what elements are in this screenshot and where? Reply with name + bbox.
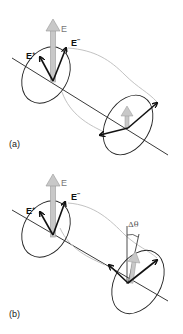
E-minus-vector-2 [100, 128, 128, 135]
propagation-axis [12, 210, 168, 301]
helix-curve-upper [68, 203, 157, 258]
label-E: E [61, 179, 67, 188]
label-E: E [61, 25, 67, 34]
label-E-plus: E+ [26, 205, 36, 216]
helix-curve-upper [68, 48, 157, 102]
rotation-angle-label: Δθ [128, 221, 139, 229]
E-plus-vector-2 [109, 265, 128, 283]
panel-label-b: (b) [9, 310, 20, 319]
label-E-plus-sup: + [32, 50, 36, 56]
label-E-minus-sup: − [77, 37, 81, 43]
label-E-minus: E− [71, 191, 81, 202]
helix-curve-lower [62, 92, 103, 134]
label-E-minus-sup: − [77, 191, 81, 197]
rotation-angle-arc [127, 234, 138, 237]
label-E-minus: E− [71, 37, 81, 48]
label-E-plus: E+ [26, 50, 36, 61]
panel-b [12, 174, 175, 323]
helix-curve-lower [60, 228, 105, 265]
polarization-ellipse-1 [12, 38, 80, 112]
polarization-ellipse-2 [101, 241, 175, 323]
label-E-plus-sup: + [32, 205, 36, 211]
panel-a [12, 19, 168, 164]
panel-label-a: (a) [9, 140, 20, 149]
